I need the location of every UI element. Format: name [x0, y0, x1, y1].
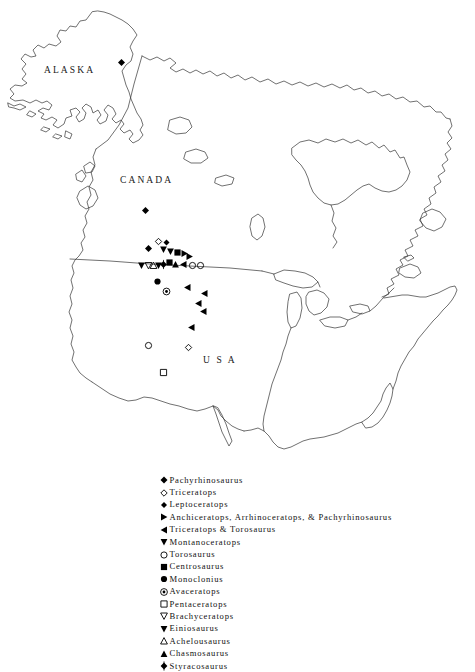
florida-peninsula: [362, 383, 393, 428]
vancouver-island: [77, 186, 98, 209]
legend-label: Centrosaurus: [169, 561, 224, 572]
us-west-coast: [69, 149, 96, 382]
legend-row: Achelousaurus: [158, 635, 475, 647]
legend-symbol-avaceratops-circle: [158, 586, 169, 597]
legend-row: Pentaceratops: [158, 598, 475, 610]
map-marker-filled-left-triangle: [182, 282, 193, 293]
us-east-coast: [384, 286, 457, 389]
james-bay: [331, 205, 337, 248]
map-canvas: ALASKA CANADA U S A: [0, 0, 475, 465]
legend-label: Pachyrhinosaurus: [169, 475, 243, 486]
canada-east-coast: [382, 119, 452, 297]
legend-row: Triceratops & Torosaurus: [158, 524, 475, 536]
legend-symbol-styracosaurus-diamond: [158, 661, 169, 672]
map-marker-open-diamond: [183, 342, 194, 353]
legend-symbol-open-diamond: [158, 487, 169, 498]
legend: PachyrhinosaurusTriceratopsLeptoceratops…: [158, 474, 475, 672]
legend-row: Torosaurus: [158, 548, 475, 560]
legend-row: Pachyrhinosaurus: [158, 474, 475, 486]
gulf-coast: [244, 422, 362, 449]
legend-symbol-filled-up-triangle: [158, 648, 169, 659]
legend-symbol-filled-left-triangle: [158, 524, 169, 535]
legend-symbol-filled-diamond: [158, 475, 169, 486]
alaska-small-island-3: [53, 134, 62, 139]
alaska-outline: [10, 11, 143, 143]
map-marker-open-circle: [195, 260, 206, 271]
nova-scotia: [399, 264, 421, 278]
legend-row: Einiosaurus: [158, 623, 475, 635]
legend-label: Triceratops: [169, 487, 217, 498]
legend-symbol-filled-right-triangle: [158, 512, 169, 523]
legend-label: Leptoceratops: [169, 499, 228, 510]
map-marker-filled-left-triangle: [186, 322, 197, 333]
alaska-small-island-1: [27, 111, 36, 117]
legend-label: Chasmosaurus: [169, 648, 229, 659]
map-marker-filled-left-triangle: [198, 306, 209, 317]
legend-row: Centrosaurus: [158, 561, 475, 573]
baja-california: [213, 406, 232, 446]
legend-symbol-filled-down-triangle: [158, 623, 169, 634]
lake-michigan: [287, 292, 302, 328]
legend-row: Montanoceratops: [158, 536, 475, 548]
lake-winnipeg: [250, 214, 265, 240]
canada-north-coast: [142, 56, 450, 119]
alaska-canada-border: [96, 56, 142, 149]
legend-label: Triceratops & Torosaurus: [169, 524, 276, 535]
map-marker-open-circle: [143, 340, 154, 351]
newfoundland: [420, 209, 446, 231]
alaska-panhandle-detail: [65, 131, 72, 139]
map-marker-open-square: [158, 367, 169, 378]
lake-superior: [274, 270, 318, 288]
legend-symbol-open-square: [158, 599, 169, 610]
legend-label: Einiosaurus: [169, 623, 219, 634]
legend-label: Montanoceratops: [169, 537, 241, 548]
legend-row: Leptoceratops: [158, 499, 475, 511]
region-label-usa: U S A: [203, 355, 237, 365]
legend-row: Chasmosaurus: [158, 647, 475, 659]
pei: [404, 255, 414, 261]
legend-label: Pentaceratops: [169, 599, 227, 610]
hudson-bay: [292, 139, 410, 205]
map-marker-filled-diamond: [140, 205, 151, 216]
legend-label: Styracosaurus: [169, 661, 228, 672]
usa-canada-border-east: [262, 271, 394, 320]
legend-symbol-open-circle: [158, 549, 169, 560]
lake-huron: [306, 290, 329, 315]
alaska-islands: [8, 103, 26, 110]
legend-label: Torosaurus: [169, 549, 215, 560]
lake-ontario: [350, 304, 370, 314]
great-slave-lake: [184, 149, 208, 163]
legend-row: Avaceratops: [158, 586, 475, 598]
alaska-small-island-2: [41, 127, 50, 132]
map-marker-filled-diamond: [116, 57, 127, 68]
legend-row: Brachyceratops: [158, 610, 475, 622]
lake-athabasca: [215, 175, 234, 186]
legend-row: Monoclonius: [158, 573, 475, 585]
legend-symbol-filled-circle: [158, 574, 169, 585]
legend-symbol-filled-square: [158, 561, 169, 572]
legend-symbol-filled-down-triangle: [158, 537, 169, 548]
legend-label: Anchiceratops, Arrhinoceratops, & Pachyr…: [169, 512, 392, 523]
legend-row: Triceratops: [158, 486, 475, 498]
legend-symbol-open-up-triangle: [158, 636, 169, 647]
us-mexico-border: [92, 382, 244, 431]
legend-label: Monoclonius: [169, 574, 223, 585]
legend-symbol-open-down-triangle: [158, 611, 169, 622]
legend-label: Achelousaurus: [169, 636, 231, 647]
map-marker-avaceratops-circle: [161, 286, 172, 297]
great-bear-lake: [168, 117, 192, 134]
legend-row: Anchiceratops, Arrhinoceratops, & Pachyr…: [158, 511, 475, 523]
region-label-canada: CANADA: [120, 175, 173, 185]
legend-label: Avaceratops: [169, 586, 220, 597]
legend-symbol-filled-diamond-small: [158, 499, 169, 510]
legend-row: Styracosaurus: [158, 660, 475, 672]
region-label-alaska: ALASKA: [44, 65, 95, 75]
legend-label: Brachyceratops: [169, 611, 234, 622]
mississippi-river: [263, 328, 291, 431]
lake-erie: [320, 317, 348, 328]
haida-gwaii: [76, 170, 86, 182]
